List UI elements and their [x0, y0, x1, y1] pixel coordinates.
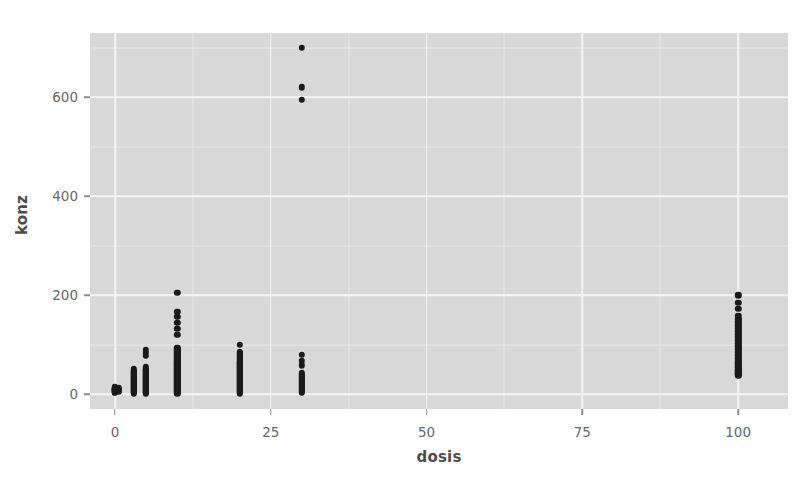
y-axis-tick-label: 0: [34, 386, 78, 402]
data-point: [174, 332, 180, 338]
x-axis-tick-label: 0: [111, 424, 120, 440]
data-point: [735, 299, 741, 305]
data-point: [299, 45, 305, 51]
y-axis-tick-label: 600: [34, 89, 78, 105]
data-point: [299, 84, 305, 90]
x-axis-tick-mark: [426, 409, 428, 415]
gridline-x-minor: [192, 33, 193, 409]
data-point: [735, 292, 741, 298]
gridline-y-minor: [90, 344, 788, 345]
x-axis-tick-label: 75: [574, 424, 591, 440]
y-axis-tick-labels: 0200400600: [22, 0, 78, 477]
y-axis-tick-label: 200: [34, 287, 78, 303]
y-axis-tick-label: 400: [34, 188, 78, 204]
data-point: [174, 320, 180, 326]
gridline-x-minor: [504, 33, 505, 409]
data-point: [735, 306, 741, 312]
gridline-x-major: [582, 33, 584, 409]
x-axis-tick-label: 100: [725, 424, 751, 440]
gridline-y-major: [90, 97, 788, 99]
gridline-y-minor: [90, 47, 788, 48]
plot-panel: [90, 33, 788, 409]
x-axis-tick-mark: [737, 409, 739, 415]
gridline-x-minor: [348, 33, 349, 409]
x-axis-title: dosis: [90, 448, 788, 466]
x-axis-tick-label: 50: [418, 424, 435, 440]
data-point: [299, 351, 305, 357]
data-point: [236, 341, 242, 347]
gridline-x-minor: [660, 33, 661, 409]
gridline-y-minor: [90, 245, 788, 246]
x-axis-tick-label: 25: [262, 424, 279, 440]
x-axis-tick-mark: [114, 409, 116, 415]
data-point: [299, 97, 305, 103]
gridline-x-major: [426, 33, 428, 409]
scatter-plot: konz 0200400600 0255075100 dosis: [0, 0, 809, 477]
x-axis-tick-mark: [582, 409, 584, 415]
gridline-y-major: [90, 294, 788, 296]
x-axis-tick-mark: [270, 409, 272, 415]
gridline-y-major: [90, 195, 788, 197]
gridline-y-major: [90, 393, 788, 395]
gridline-x-major: [114, 33, 116, 409]
gridline-x-major: [270, 33, 272, 409]
data-point: [174, 326, 180, 332]
gridline-y-minor: [90, 146, 788, 147]
